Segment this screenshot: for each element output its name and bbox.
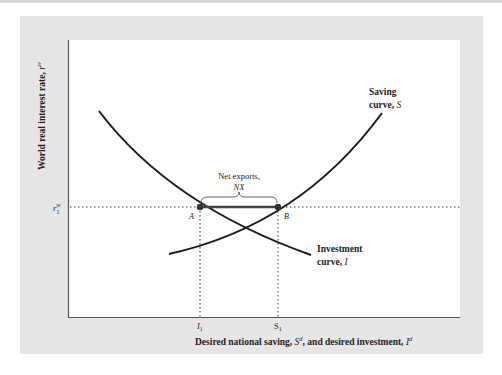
saving-label-line2: curve, S [369, 100, 401, 110]
world-rate-tick-label: rw1 [53, 202, 61, 215]
point-b-label: B [284, 212, 289, 221]
investment-label-line2: curve, I [317, 257, 348, 267]
s1-tick-label: S1 [274, 321, 282, 332]
saving-label-line1: Saving [369, 87, 397, 97]
point-b-marker [275, 204, 281, 210]
nx-label-line2: NX [233, 182, 246, 192]
point-a-marker [197, 204, 203, 210]
x-axis-label: Desired national saving, Sd, and desired… [195, 335, 413, 347]
point-a-label: A [188, 212, 194, 221]
nx-label-line1: Net exports, [218, 171, 260, 181]
i1-tick-label: I1 [196, 321, 203, 332]
y-axis-label: World real interest rate, rw [35, 61, 47, 170]
plot-area [68, 40, 460, 317]
investment-label-line1: Investment [317, 244, 363, 254]
diagram: Net exports, NX A B Saving curve, S Inve… [0, 0, 502, 375]
